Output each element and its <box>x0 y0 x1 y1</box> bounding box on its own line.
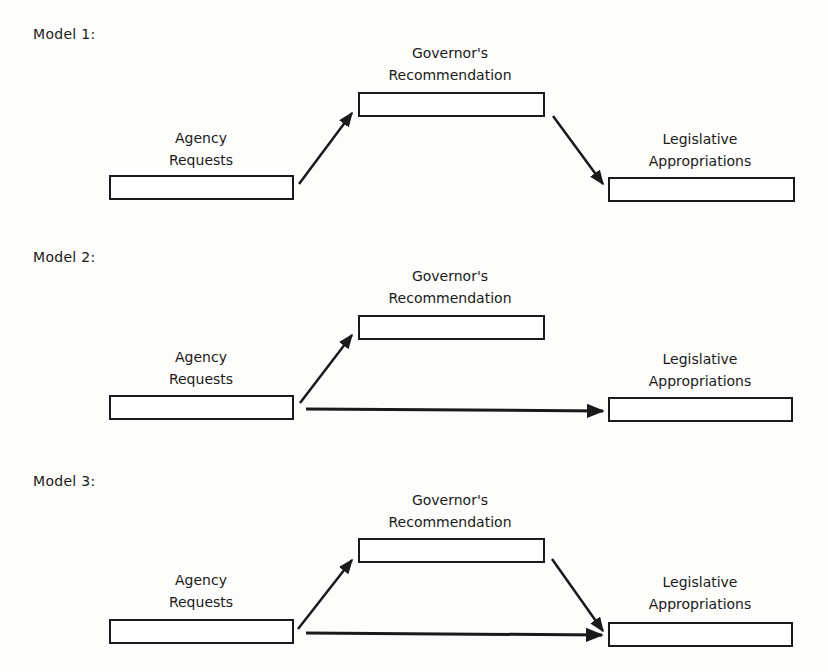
arrow-agency-to-legislative <box>306 633 602 635</box>
model-3: Model 3: Governor's Recommendation Agenc… <box>0 0 828 672</box>
arrow-governor-to-legislative <box>552 559 603 631</box>
arrow-agency-to-governor <box>298 560 352 629</box>
model-3-arrows <box>0 0 828 672</box>
